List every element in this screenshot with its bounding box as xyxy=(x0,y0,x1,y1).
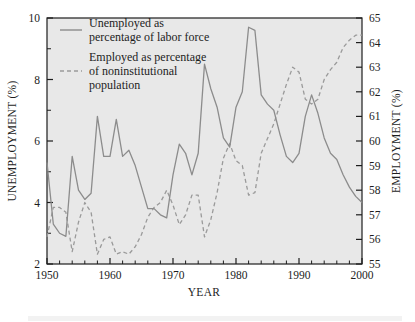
legend-label-employed-line2: of noninstitutional xyxy=(89,64,178,78)
x-tick-label: 1960 xyxy=(99,269,122,281)
left-axis-tick-labels: 246810 xyxy=(29,12,41,270)
y-right-tick-label: 60 xyxy=(369,135,381,147)
x-axis-title: YEAR xyxy=(188,286,221,298)
y-right-tick-label: 56 xyxy=(369,233,381,245)
y-right-tick-label: 64 xyxy=(369,37,381,49)
x-tick-label: 1950 xyxy=(36,269,59,281)
y-left-tick-label: 8 xyxy=(34,74,40,86)
y-right-tick-label: 58 xyxy=(369,184,381,196)
y-right-tick-label: 61 xyxy=(369,110,381,122)
x-tick-label: 1990 xyxy=(288,269,311,281)
y-right-tick-label: 62 xyxy=(369,86,381,98)
legend-label-employed-line3: population xyxy=(89,78,140,92)
y-left-tick-label: 6 xyxy=(34,135,40,147)
right-axis-tick-labels: 5556575859606162636465 xyxy=(369,12,381,270)
x-tick-label: 2000 xyxy=(351,269,374,281)
y-left-tick-label: 4 xyxy=(34,197,40,209)
x-tick-label: 1980 xyxy=(225,269,248,281)
y-right-tick-label: 59 xyxy=(369,160,381,172)
chart-figure: 246810 5556575859606162636465 1950196019… xyxy=(0,0,415,322)
unemployment-employment-line-chart: 246810 5556575859606162636465 1950196019… xyxy=(0,0,415,322)
legend-label-unemployed-line2: percentage of labor force xyxy=(89,30,209,44)
y-left-tick-label: 10 xyxy=(29,12,41,24)
y-right-tick-label: 65 xyxy=(369,12,381,24)
left-axis-title: UNEMPLOYMENT (%) xyxy=(6,80,19,201)
legend-label-employed-line1: Employed as percentage xyxy=(89,50,206,64)
x-tick-label: 1970 xyxy=(162,269,185,281)
legend-label-unemployed-line1: Unemployed as xyxy=(89,16,164,30)
y-right-tick-label: 63 xyxy=(369,61,381,73)
y-right-tick-label: 57 xyxy=(369,209,381,221)
x-axis-tick-labels: 195019601970198019902000 xyxy=(36,269,374,281)
right-axis-title: EMPLOYMENT (%) xyxy=(390,89,403,193)
caption-rule xyxy=(28,316,402,321)
